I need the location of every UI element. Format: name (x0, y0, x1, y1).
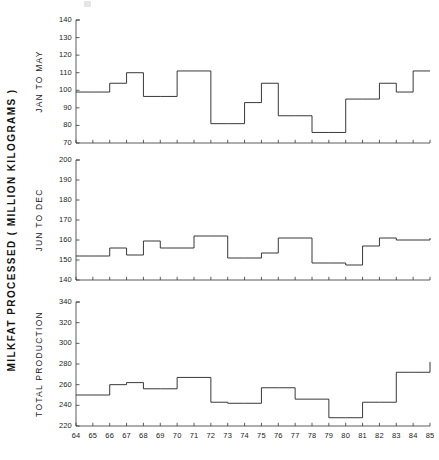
y-tick-label: 150 (46, 255, 72, 264)
y-tick-label: 180 (46, 195, 72, 204)
y-tick-label: 260 (46, 380, 72, 389)
y-tick-label: 300 (46, 338, 72, 347)
chart-figure: MILKFAT PROCESSED ( MILLION KILOGRAMS ) … (0, 0, 439, 460)
y-tick-label: 160 (46, 235, 72, 244)
y-tick-label: 280 (46, 359, 72, 368)
y-tick-label: 190 (46, 175, 72, 184)
x-tick-label: 85 (420, 431, 439, 440)
y-tick-label: 140 (46, 275, 72, 284)
y-tick-label: 320 (46, 318, 72, 327)
y-tick-label: 170 (46, 215, 72, 224)
y-tick-label: 200 (46, 155, 72, 164)
y-tick-label: 240 (46, 400, 72, 409)
y-tick-label: 220 (46, 421, 72, 430)
panel-plot-2 (0, 0, 439, 460)
panel-total-production: 220240260280300320340TOTAL PRODUCTION (0, 0, 439, 150)
y-tick-label: 340 (46, 297, 72, 306)
panel-label: TOTAL PRODUCTION (32, 302, 46, 426)
panel-label: JUN TO DEC (32, 160, 46, 280)
